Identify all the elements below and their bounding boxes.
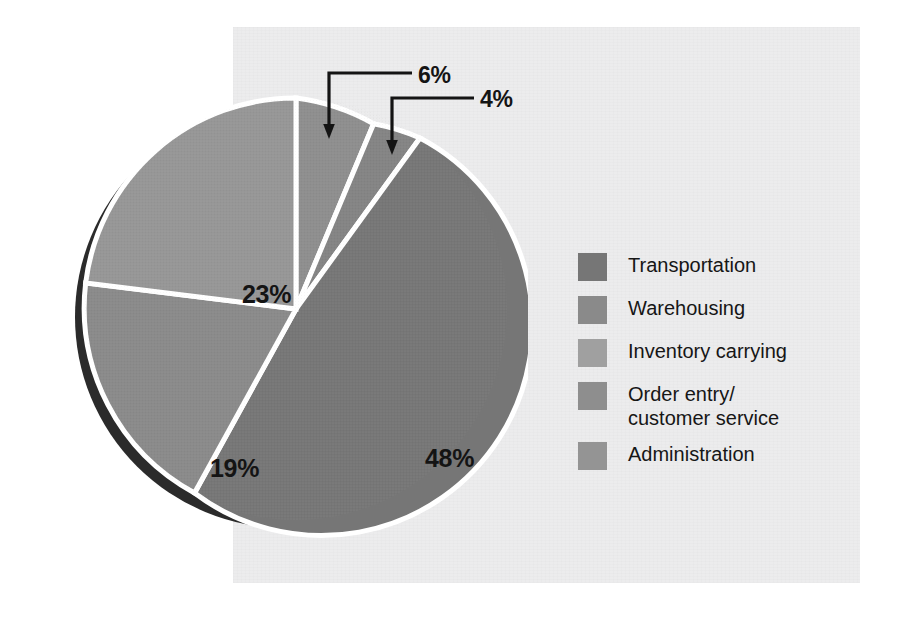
legend-label: Transportation xyxy=(628,252,756,277)
legend-swatch-icon xyxy=(578,339,607,367)
callout-label-6-percent: 6% xyxy=(418,62,451,89)
legend: Transportation Warehousing Inventory car… xyxy=(578,252,787,470)
pie-chart: 23% 19% 48% xyxy=(68,83,528,543)
legend-label: Order entry/ customer service xyxy=(628,381,779,430)
legend-item-inventory-carrying[interactable]: Inventory carrying xyxy=(578,338,787,367)
legend-swatch-icon xyxy=(578,253,607,281)
legend-item-warehousing[interactable]: Warehousing xyxy=(578,295,787,324)
slice-label-transportation: 48% xyxy=(425,444,474,473)
legend-label: Warehousing xyxy=(628,295,745,320)
legend-item-administration[interactable]: Administration xyxy=(578,441,787,470)
legend-label: Inventory carrying xyxy=(628,338,787,363)
slice-label-order-entry: 19% xyxy=(210,454,259,483)
legend-item-transportation[interactable]: Transportation xyxy=(578,252,787,281)
legend-item-order-entry[interactable]: Order entry/ customer service xyxy=(578,381,787,430)
slice-label-administration: 23% xyxy=(242,280,291,309)
legend-label: Administration xyxy=(628,441,755,466)
legend-swatch-icon xyxy=(578,382,607,410)
chart-page: 23% 19% 48% 6% 4% Transportation Warehou… xyxy=(0,0,898,620)
callout-label-4-percent: 4% xyxy=(480,86,513,113)
legend-swatch-icon xyxy=(578,442,607,470)
legend-swatch-icon xyxy=(578,296,607,324)
pie-svg xyxy=(68,83,528,543)
